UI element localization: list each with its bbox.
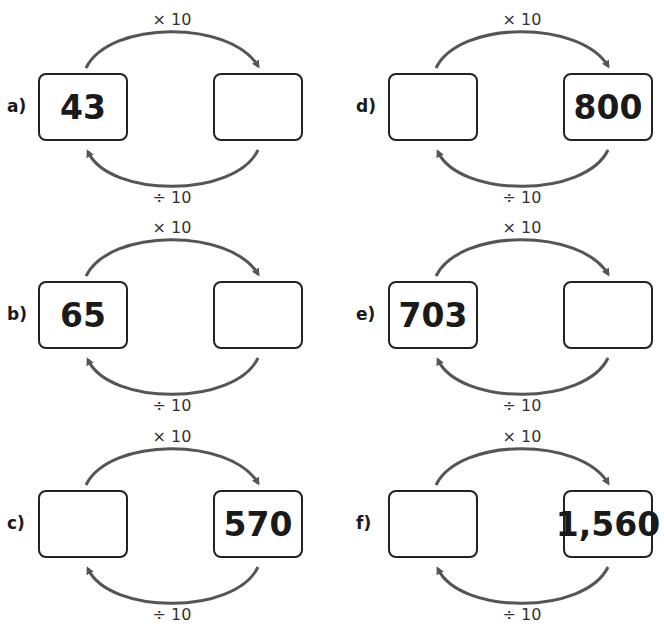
problem: × 10 ÷ 10 f) 1,560 — [328, 417, 656, 626]
problem: × 10 ÷ 10 e) 703 — [328, 208, 656, 417]
multiply-label: × 10 — [492, 10, 552, 29]
output-box-right[interactable] — [563, 281, 653, 349]
multiply-label: × 10 — [492, 218, 552, 237]
divide-arrow — [88, 150, 258, 186]
multiply-arrow — [86, 449, 258, 485]
problem-label: b) — [7, 304, 27, 324]
input-box-left[interactable] — [388, 490, 478, 558]
multiply-label: × 10 — [142, 10, 202, 29]
divide-label: ÷ 10 — [142, 396, 202, 415]
divide-label: ÷ 10 — [492, 396, 552, 415]
input-box-left[interactable] — [388, 73, 478, 141]
multiply-arrow — [86, 240, 258, 276]
multiply-label: × 10 — [142, 427, 202, 446]
input-box-left[interactable]: 43 — [38, 73, 128, 141]
output-box-right[interactable]: 570 — [213, 490, 303, 558]
divide-label: ÷ 10 — [492, 188, 552, 207]
divide-label: ÷ 10 — [142, 605, 202, 624]
multiply-arrow — [436, 240, 608, 276]
problem: × 10 ÷ 10 c) 570 — [0, 417, 328, 626]
divide-arrow — [88, 567, 258, 603]
divide-label: ÷ 10 — [142, 188, 202, 207]
output-box-right[interactable]: 800 — [563, 73, 653, 141]
multiply-arrow — [436, 32, 608, 68]
divide-label: ÷ 10 — [492, 605, 552, 624]
problem-label: e) — [356, 304, 375, 324]
problem: × 10 ÷ 10 b) 65 — [0, 208, 328, 417]
divide-arrow — [438, 567, 608, 603]
problem-label: c) — [7, 513, 25, 533]
multiply-label: × 10 — [142, 218, 202, 237]
divide-arrow — [88, 358, 258, 394]
divide-arrow — [438, 150, 608, 186]
multiply-label: × 10 — [492, 427, 552, 446]
multiply-arrow — [86, 32, 258, 68]
multiply-arrow — [436, 449, 608, 485]
input-box-left[interactable] — [38, 490, 128, 558]
output-box-right[interactable] — [213, 281, 303, 349]
problem-label: d) — [356, 96, 376, 116]
problem: × 10 ÷ 10 d) 800 — [328, 0, 656, 209]
output-box-right[interactable]: 1,560 — [563, 490, 653, 558]
divide-arrow — [438, 358, 608, 394]
problem-label: a) — [7, 96, 26, 116]
problem: × 10 ÷ 10 a) 43 — [0, 0, 328, 209]
output-box-right[interactable] — [213, 73, 303, 141]
input-box-left[interactable]: 703 — [388, 281, 478, 349]
problem-label: f) — [356, 513, 371, 533]
input-box-left[interactable]: 65 — [38, 281, 128, 349]
